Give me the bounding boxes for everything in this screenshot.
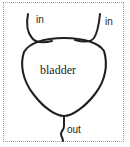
inlet-left-label: in bbox=[36, 14, 44, 25]
bladder-body-outline bbox=[22, 38, 106, 116]
outlet-tube bbox=[61, 116, 64, 141]
inlet-right-tube bbox=[75, 14, 100, 42]
inlet-right-label: in bbox=[105, 16, 113, 27]
bladder-diagram-figure: in in bladder out bbox=[0, 0, 130, 147]
diagram-canvas: in in bladder out bbox=[0, 0, 130, 147]
outlet-label: out bbox=[67, 124, 81, 135]
bladder-body-label: bladder bbox=[40, 63, 76, 77]
